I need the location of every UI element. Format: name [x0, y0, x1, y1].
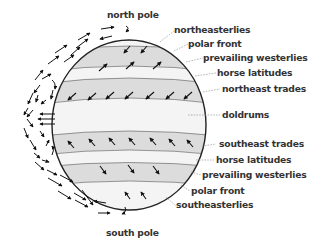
label-southeast-trades: southeast trades	[219, 138, 304, 149]
label-horse-latitudes-north: horse latitudes	[217, 67, 292, 78]
wind-belt-diagram	[0, 0, 312, 249]
label-prevailing-westerlies-north: prevailing westerlies	[203, 52, 307, 63]
label-horse-latitudes-south: horse latitudes	[216, 154, 291, 165]
label-northeast-trades: northeast trades	[222, 83, 306, 94]
label-polar-front-north: polar front	[188, 38, 242, 49]
label-prevailing-westerlies-south: prevailing westerlies	[202, 169, 306, 180]
label-doldrums: doldrums	[222, 109, 269, 120]
label-southeasterlies: southeasterlies	[176, 199, 253, 210]
label-polar-front-south: polar front	[191, 185, 245, 196]
north-pole-label: north pole	[107, 9, 159, 20]
label-northeasterlies: northeasterlies	[174, 24, 250, 35]
south-pole-label: south pole	[106, 227, 159, 238]
